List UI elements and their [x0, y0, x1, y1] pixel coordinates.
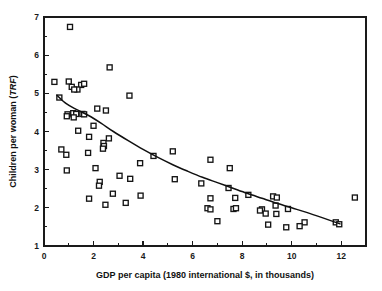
data-point-marker: [117, 173, 122, 178]
data-points: [52, 24, 357, 229]
x-tick-label: 8: [240, 251, 245, 261]
data-point-marker: [302, 220, 307, 225]
plot-frame: [44, 17, 366, 246]
figure-container: 024681012 1234567 GDP per capita (1980 i…: [0, 0, 382, 291]
x-tick-label: 10: [287, 251, 297, 261]
y-axis-ticks: [44, 17, 49, 246]
data-point-marker: [64, 114, 69, 119]
data-point-marker: [106, 136, 111, 141]
data-point-marker: [227, 166, 232, 171]
data-point-marker: [208, 196, 213, 201]
data-point-marker: [110, 191, 115, 196]
data-point-marker: [128, 176, 133, 181]
data-point-marker: [233, 206, 238, 211]
x-axis-ticks: [44, 241, 366, 246]
data-point-marker: [72, 87, 77, 92]
y-axis-tick-labels: 1234567: [34, 12, 39, 251]
data-point-marker: [103, 108, 108, 113]
y-tick-label: 7: [34, 12, 39, 22]
y-axis-title-tail: ): [8, 75, 18, 78]
data-point-marker: [52, 79, 57, 84]
data-point-marker: [263, 211, 268, 216]
data-point-marker: [96, 183, 101, 188]
y-axis-title: Children per woman (TRF): [8, 75, 18, 188]
scatter-plot: 024681012 1234567 GDP per capita (1980 i…: [0, 0, 382, 291]
x-tick-label: 12: [336, 251, 346, 261]
data-point-marker: [93, 166, 98, 171]
data-point-marker: [76, 128, 81, 133]
data-point-marker: [233, 195, 238, 200]
data-point-marker: [59, 147, 64, 152]
data-point-marker: [82, 81, 87, 86]
y-tick-label: 4: [34, 127, 39, 137]
data-point-marker: [127, 93, 132, 98]
data-point-marker: [87, 196, 92, 201]
data-point-marker: [208, 157, 213, 162]
plot-frame-rect: [44, 17, 366, 246]
data-point-marker: [87, 134, 92, 139]
x-axis-tick-labels: 024681012: [42, 251, 347, 261]
data-point-marker: [91, 123, 96, 128]
data-point-marker: [138, 193, 143, 198]
y-tick-label: 1: [34, 241, 39, 251]
data-point-marker: [199, 181, 204, 186]
data-point-marker: [172, 177, 177, 182]
y-axis-title-abbrev: TRF: [8, 78, 18, 96]
data-point-marker: [215, 219, 220, 224]
data-point-marker: [95, 106, 100, 111]
data-point-marker: [103, 202, 108, 207]
y-tick-label: 2: [34, 203, 39, 213]
trend-line: [57, 95, 340, 224]
y-axis-title-text: Children per woman (: [8, 96, 18, 188]
data-point-marker: [284, 225, 289, 230]
data-point-marker: [138, 161, 143, 166]
y-tick-label: 3: [34, 165, 39, 175]
x-tick-label: 0: [42, 251, 47, 261]
data-point-marker: [107, 65, 112, 70]
data-point-marker: [352, 195, 357, 200]
data-point-marker: [71, 115, 76, 120]
y-tick-label: 6: [34, 50, 39, 60]
data-point-marker: [170, 149, 175, 154]
x-axis-title: GDP per capita (1980 international $, in…: [96, 270, 314, 280]
x-tick-label: 2: [91, 251, 96, 261]
data-point-marker: [64, 152, 69, 157]
data-point-marker: [266, 222, 271, 227]
y-tick-label: 5: [34, 88, 39, 98]
data-point-marker: [66, 79, 71, 84]
data-point-marker: [257, 208, 262, 213]
data-point-marker: [100, 146, 105, 151]
data-point-marker: [68, 24, 73, 29]
data-point-marker: [86, 150, 91, 155]
data-point-marker: [274, 211, 279, 216]
data-point-marker: [123, 200, 128, 205]
x-tick-label: 6: [190, 251, 195, 261]
data-point-marker: [64, 168, 69, 173]
x-tick-label: 4: [141, 251, 146, 261]
data-point-marker: [208, 207, 213, 212]
data-point-marker: [297, 224, 302, 229]
data-point-marker: [274, 195, 279, 200]
